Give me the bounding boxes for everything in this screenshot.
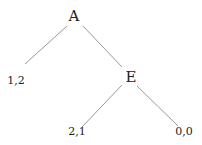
tree-edges [0,0,202,145]
payoff-leaf-3: 0,0 [175,125,193,138]
edge-a-to-e [83,26,122,67]
edge-e-to-leaf-2 [82,85,122,127]
edge-a-to-leaf-1 [25,26,67,64]
game-tree: A E 1,2 2,1 0,0 [0,0,202,145]
node-e: E [126,68,137,86]
edge-e-to-leaf-3 [137,86,178,126]
node-a: A [69,7,80,25]
payoff-leaf-1: 1,2 [7,74,25,87]
payoff-leaf-2: 2,1 [68,125,86,138]
